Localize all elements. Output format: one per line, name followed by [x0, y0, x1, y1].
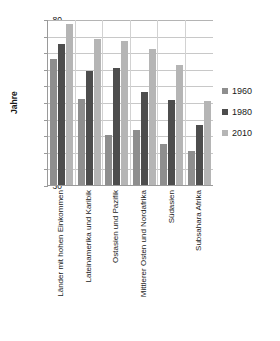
bar	[176, 65, 183, 185]
x-axis-category-label: Südasien	[168, 190, 176, 223]
x-axis-label-cell: Ostasien und Pazifik	[102, 190, 130, 335]
bar	[105, 135, 112, 185]
y-axis-title: Jahre	[6, 78, 22, 128]
legend-item[interactable]: 2010	[222, 128, 252, 138]
bar	[196, 125, 203, 185]
bar	[121, 41, 128, 185]
legend-label: 1980	[232, 107, 252, 117]
bar	[86, 71, 93, 185]
x-axis-label-cell: Südasien	[158, 190, 186, 335]
x-axis-label-cell: Länder mit hohen Einkommen	[47, 190, 75, 335]
bar-chart: Jahre 8075706560555045403530 Länder mit …	[0, 0, 280, 341]
bar	[113, 68, 120, 185]
chart-legend: 196019802010	[222, 86, 252, 138]
bar	[66, 24, 73, 185]
bar	[133, 130, 140, 185]
bar	[204, 101, 211, 185]
bar-group	[158, 20, 186, 185]
x-axis-label-cell: Lateinamerika und Karibik	[75, 190, 103, 335]
legend-item[interactable]: 1980	[222, 107, 252, 117]
x-axis-label-cell: Mittlerer Osten und Nordafrika	[130, 190, 158, 335]
bar	[78, 99, 85, 185]
x-axis-category-label: Ostasien und Pazifik	[112, 190, 120, 263]
bar	[149, 49, 156, 185]
bar	[188, 151, 195, 185]
bar	[168, 100, 175, 185]
bar-group	[76, 20, 104, 185]
plot-area	[47, 20, 213, 186]
x-axis-category-label: Subsahara Afrika	[195, 190, 203, 251]
bar	[50, 59, 57, 185]
bar-group	[186, 20, 214, 185]
bar	[94, 39, 101, 185]
bar-group	[131, 20, 159, 185]
x-axis-label-cell: Subsahara Afrika	[185, 190, 213, 335]
legend-label: 2010	[232, 128, 252, 138]
bar-group	[48, 20, 76, 185]
x-axis-category-label: Länder mit hohen Einkommen	[57, 190, 65, 297]
bar	[141, 92, 148, 185]
y-axis-tick	[44, 186, 48, 187]
bar-group	[103, 20, 131, 185]
bar-groups	[48, 20, 213, 185]
legend-swatch-icon	[222, 109, 228, 115]
legend-item[interactable]: 1960	[222, 86, 252, 96]
bar	[58, 44, 65, 185]
legend-swatch-icon	[222, 88, 228, 94]
x-axis-category-label: Mittlerer Osten und Nordafrika	[140, 190, 148, 297]
legend-label: 1960	[232, 86, 252, 96]
x-axis-category-labels: Länder mit hohen EinkommenLateinamerika …	[47, 190, 213, 335]
legend-swatch-icon	[222, 130, 228, 136]
x-axis-category-label: Lateinamerika und Karibik	[85, 190, 93, 283]
bar	[160, 144, 167, 185]
